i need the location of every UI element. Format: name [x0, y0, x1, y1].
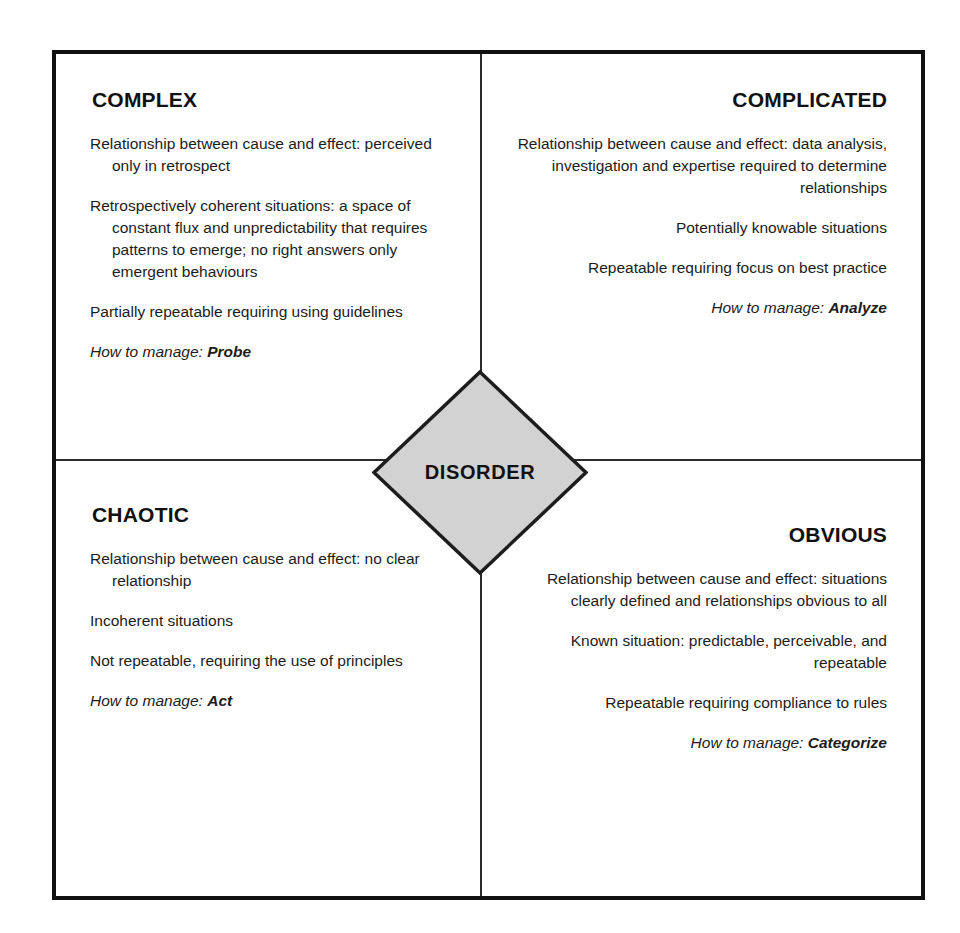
- manage-line-chaotic: How to manage: Act: [90, 690, 456, 712]
- quadrant-point: Relationship between cause and effect: p…: [90, 133, 456, 177]
- quadrant-title-obvious: OBVIOUS: [506, 523, 887, 546]
- quadrant-point: Relationship between cause and effect: s…: [506, 568, 887, 612]
- manage-label: How to manage:: [90, 692, 203, 709]
- manage-label: How to manage:: [711, 299, 824, 316]
- quadrant-obvious: OBVIOUS Relationship between cause and e…: [482, 461, 921, 896]
- quadrant-point: Not repeatable, requiring the use of pri…: [90, 650, 456, 672]
- quadrant-point: Partially repeatable requiring using gui…: [90, 301, 456, 323]
- quadrant-complicated: COMPLICATED Relationship between cause a…: [482, 54, 921, 459]
- quadrant-title-complicated: COMPLICATED: [506, 88, 887, 111]
- manage-action: Probe: [207, 343, 251, 360]
- cynefin-framework-frame: COMPLEX Relationship between cause and e…: [52, 50, 925, 900]
- quadrant-point: Repeatable requiring compliance to rules: [506, 692, 887, 714]
- manage-action: Act: [207, 692, 232, 709]
- quadrant-chaotic: CHAOTIC Relationship between cause and e…: [56, 461, 480, 896]
- quadrant-point: Incoherent situations: [90, 610, 456, 632]
- quadrant-point: Retrospectively coherent situations: a s…: [90, 195, 456, 283]
- manage-action: Analyze: [828, 299, 887, 316]
- quadrant-grid: COMPLEX Relationship between cause and e…: [56, 54, 921, 896]
- manage-label: How to manage:: [691, 734, 804, 751]
- manage-line-complex: How to manage: Probe: [90, 341, 456, 363]
- quadrant-complex: COMPLEX Relationship between cause and e…: [56, 54, 480, 459]
- manage-label: How to manage:: [90, 343, 203, 360]
- manage-line-complicated: How to manage: Analyze: [506, 297, 887, 319]
- manage-line-obvious: How to manage: Categorize: [506, 732, 887, 754]
- quadrant-point: Repeatable requiring focus on best pract…: [506, 257, 887, 279]
- quadrant-title-complex: COMPLEX: [92, 88, 456, 111]
- quadrant-title-chaotic: CHAOTIC: [92, 503, 456, 526]
- quadrant-point: Potentially knowable situations: [506, 217, 887, 239]
- manage-action: Categorize: [808, 734, 887, 751]
- quadrant-point: Known situation: predictable, perceivabl…: [506, 630, 887, 674]
- quadrant-point: Relationship between cause and effect: d…: [506, 133, 887, 199]
- quadrant-point: Relationship between cause and effect: n…: [90, 548, 456, 592]
